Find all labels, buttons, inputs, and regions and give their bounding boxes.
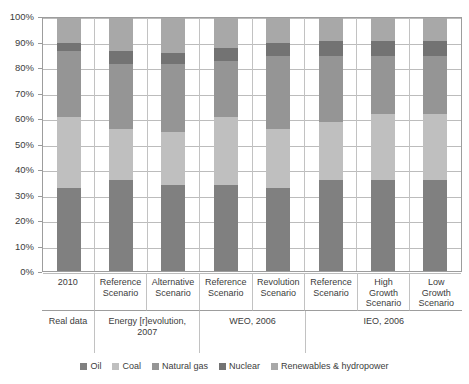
- legend-item[interactable]: Natural gas: [152, 361, 208, 371]
- bar-segment: [423, 41, 447, 56]
- bar-segment: [266, 18, 290, 43]
- bar-segment: [423, 180, 447, 271]
- bar-segment: [57, 51, 81, 117]
- bar-segment: [161, 132, 185, 185]
- x-category-label: AlternativeScenario: [147, 273, 200, 311]
- y-tick-label: 10%: [15, 242, 34, 252]
- bar-segment: [214, 48, 238, 61]
- bar-segment: [214, 18, 238, 48]
- bar-segment: [371, 114, 395, 180]
- x-category-label: RevolutionScenario: [253, 273, 306, 311]
- bar-segment: [161, 18, 185, 53]
- x-group-label: WEO, 2006: [200, 311, 305, 353]
- x-category-label-line: Scenario: [253, 288, 305, 299]
- legend-item[interactable]: Renewables & hydropower: [271, 361, 389, 371]
- bar-segment: [161, 53, 185, 63]
- stacked-bar[interactable]: [371, 18, 395, 271]
- bar-segment: [319, 18, 343, 41]
- bar-segment: [109, 180, 133, 271]
- y-tick-label: 0%: [20, 267, 34, 277]
- chart-legend: OilCoalNatural gasNuclearRenewables & hy…: [0, 361, 469, 371]
- bar-segment: [319, 56, 343, 122]
- x-category-label-line: Reference: [95, 277, 147, 288]
- y-tick-label: 80%: [15, 63, 34, 73]
- x-axis-category-labels: 2010ReferenceScenarioAlternativeScenario…: [42, 273, 462, 311]
- legend-label: Renewables & hydropower: [281, 361, 389, 371]
- x-category-label-line: Scenario: [305, 288, 357, 299]
- x-group-label: IEO, 2006: [306, 311, 462, 353]
- bar-segment: [423, 18, 447, 41]
- bar-slot: [410, 18, 461, 271]
- bar-segment: [319, 180, 343, 271]
- x-group-label-line: Real data: [42, 316, 94, 327]
- stacked-bar-chart: 0%10%20%30%40%50%60%70%80%90%100% 2010Re…: [0, 0, 469, 384]
- y-tick-label: 40%: [15, 165, 34, 175]
- x-category-label-line: Growth: [410, 288, 462, 299]
- legend-label: Oil: [90, 361, 101, 371]
- stacked-bar[interactable]: [214, 18, 238, 271]
- x-category-label: LowGrowthScenario: [410, 273, 462, 311]
- x-group-label-line: IEO, 2006: [306, 316, 462, 327]
- bar-segment: [371, 56, 395, 114]
- x-group-label: Energy [r]evolution,2007: [95, 311, 200, 353]
- x-category-label-line: 2010: [42, 277, 94, 288]
- bar-segment: [371, 18, 395, 41]
- legend-swatch-icon: [271, 363, 278, 370]
- y-tick-label: 60%: [15, 114, 34, 124]
- bar-segment: [214, 61, 238, 117]
- bar-segment: [423, 114, 447, 180]
- legend-swatch-icon: [112, 363, 119, 370]
- x-category-label-line: Low: [410, 277, 462, 288]
- y-tick-label: 100%: [10, 12, 34, 22]
- x-category-label-line: High: [358, 277, 410, 288]
- bar-segment: [109, 51, 133, 64]
- legend-item[interactable]: Oil: [80, 361, 101, 371]
- bar-segment: [161, 185, 185, 271]
- x-category-label: ReferenceScenario: [95, 273, 148, 311]
- legend-label: Natural gas: [162, 361, 208, 371]
- x-category-label: 2010: [42, 273, 95, 311]
- y-axis: 0%10%20%30%40%50%60%70%80%90%100%: [0, 10, 38, 280]
- y-tick-label: 90%: [15, 38, 34, 48]
- x-axis-group-labels: Real dataEnergy [r]evolution,2007WEO, 20…: [42, 311, 462, 353]
- bar-segment: [371, 180, 395, 271]
- stacked-bar[interactable]: [161, 18, 185, 271]
- stacked-bar[interactable]: [57, 18, 81, 271]
- bar-segment: [319, 122, 343, 180]
- bar-slot: [357, 18, 409, 271]
- bar-segment: [266, 56, 290, 129]
- x-category-label-line: Growth: [358, 288, 410, 299]
- bar-segment: [109, 129, 133, 180]
- y-tick-label: 30%: [15, 191, 34, 201]
- bar-slot: [43, 18, 95, 271]
- x-group-label-line: Energy [r]evolution,: [95, 316, 199, 327]
- bar-segment: [266, 43, 290, 56]
- legend-item[interactable]: Nuclear: [219, 361, 260, 371]
- x-group-label-line: WEO, 2006: [200, 316, 304, 327]
- bar-segment: [214, 185, 238, 271]
- plot-area: [42, 17, 462, 272]
- stacked-bar[interactable]: [109, 18, 133, 271]
- legend-item[interactable]: Coal: [112, 361, 141, 371]
- stacked-bar[interactable]: [423, 18, 447, 271]
- stacked-bar[interactable]: [319, 18, 343, 271]
- bar-segment: [57, 188, 81, 271]
- bar-segment: [109, 64, 133, 130]
- y-tick-label: 70%: [15, 89, 34, 99]
- x-category-label-line: Reference: [305, 277, 357, 288]
- legend-swatch-icon: [80, 363, 87, 370]
- x-category-label-line: Scenario: [95, 288, 147, 299]
- x-category-label: ReferenceScenario: [305, 273, 358, 311]
- legend-label: Coal: [122, 361, 141, 371]
- bar-segment: [57, 18, 81, 43]
- bar-segment: [214, 117, 238, 185]
- bar-slot: [305, 18, 357, 271]
- bar-segment: [57, 43, 81, 51]
- x-category-label-line: Reference: [200, 277, 252, 288]
- bar-segment: [371, 41, 395, 56]
- x-group-label-line: 2007: [95, 327, 199, 338]
- x-category-label-line: Scenario: [147, 288, 199, 299]
- bar-segment: [109, 18, 133, 51]
- stacked-bar[interactable]: [266, 18, 290, 271]
- bar-segment: [57, 117, 81, 188]
